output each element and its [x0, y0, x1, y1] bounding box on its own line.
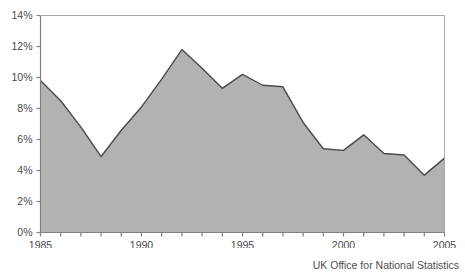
chart-plot-area: 0%2%4%6%8%10%12%14% 19851990199520002005 — [0, 0, 465, 248]
x-axis-tick-label: 1985 — [29, 239, 53, 249]
y-axis-tick-label: 0% — [17, 226, 32, 238]
source-attribution: UK Office for National Statistics — [313, 259, 459, 271]
x-axis-tick-label: 2005 — [433, 239, 457, 249]
chart-screenshot: 0%2%4%6%8%10%12%14% 19851990199520002005… — [0, 0, 465, 277]
y-axis-tick-label: 14% — [11, 9, 32, 21]
y-axis-tick-label: 12% — [11, 40, 32, 52]
x-axis-tick-label: 1990 — [130, 239, 154, 249]
area-chart-svg: 0%2%4%6%8%10%12%14% 19851990199520002005 — [0, 0, 465, 248]
x-axis-label-group: 19851990199520002005 — [29, 239, 457, 249]
area-series-fill — [41, 50, 445, 233]
y-axis-tick-label: 8% — [17, 102, 32, 114]
x-axis-tick-label: 2000 — [332, 239, 356, 249]
y-axis-tick-label: 10% — [11, 71, 32, 83]
x-axis-tick-group — [41, 233, 445, 237]
x-axis-tick-label: 1995 — [231, 239, 255, 249]
y-axis-tick-label: 4% — [17, 164, 32, 176]
y-axis-label-group: 0%2%4%6%8%10%12%14% — [11, 9, 32, 238]
y-axis-tick-label: 6% — [17, 133, 32, 145]
y-axis-tick-label: 2% — [17, 195, 32, 207]
